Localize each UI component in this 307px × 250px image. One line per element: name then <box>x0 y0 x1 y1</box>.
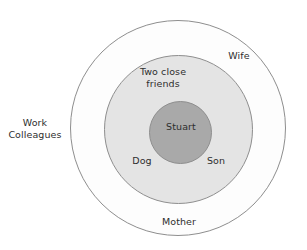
label-son: Son <box>201 155 231 167</box>
label-stuart: Stuart <box>155 121 207 133</box>
concentric-circles-diagram: Work Colleagues Wife Mother Two close fr… <box>0 0 307 250</box>
label-wife: Wife <box>217 50 261 62</box>
label-work-colleagues: Work Colleagues <box>4 117 66 140</box>
label-dog: Dog <box>126 155 158 167</box>
label-mother: Mother <box>155 216 203 228</box>
label-two-close-friends: Two close friends <box>124 66 202 89</box>
